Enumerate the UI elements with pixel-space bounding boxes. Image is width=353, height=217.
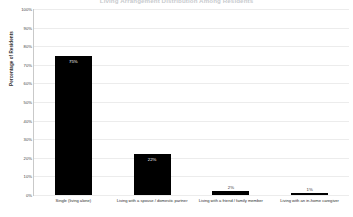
y-axis-tick-label: 100% — [21, 7, 32, 12]
y-axis-title: Percentage of Residents — [9, 4, 14, 114]
y-axis-tick-label: 10% — [24, 174, 32, 179]
y-axis-tick-label: 20% — [24, 155, 32, 160]
y-axis-tick-label: 60% — [24, 81, 32, 86]
chart-title: Living Arrangement Distribution Among Re… — [0, 0, 353, 4]
y-axis-tick-label: 40% — [24, 118, 32, 123]
bar[interactable]: 22% — [134, 154, 171, 195]
gridline — [34, 195, 349, 196]
bar[interactable]: 75% — [55, 56, 92, 196]
y-axis-tick-label: 70% — [24, 62, 32, 67]
plot-area: 0%10%20%30%40%50%60%70%80%90%100%75%Sing… — [33, 9, 349, 196]
bar-group: 22%Living with a spouse / domestic partn… — [113, 9, 192, 195]
bar-chart: Living Arrangement Distribution Among Re… — [0, 0, 353, 217]
bar-group: 2%Living with a friend / family member — [192, 9, 271, 195]
bar-value-label: 22% — [134, 157, 171, 162]
bar-value-label: 75% — [55, 59, 92, 64]
y-axis-tick-label: 80% — [24, 44, 32, 49]
x-axis-category-label: Living with a spouse / domestic partner — [117, 198, 188, 203]
y-axis-tick-label: 50% — [24, 100, 32, 105]
bar-group: 75%Single (living alone) — [34, 9, 113, 195]
bar[interactable] — [212, 191, 249, 195]
y-axis-tick-label: 90% — [24, 25, 32, 30]
bar-value-label: 2% — [212, 185, 249, 190]
x-axis-category-label: Living with a friend / family member — [199, 198, 263, 203]
y-axis-tick-label: 30% — [24, 137, 32, 142]
x-axis-category-label: Single (living alone) — [56, 198, 92, 203]
x-axis-category-label: Living with an in-home caregiver — [280, 198, 339, 203]
bar-value-label: 1% — [291, 187, 328, 192]
y-axis-tick-label: 0% — [26, 193, 32, 198]
bar[interactable] — [291, 193, 328, 195]
bar-group: 1%Living with an in-home caregiver — [270, 9, 349, 195]
